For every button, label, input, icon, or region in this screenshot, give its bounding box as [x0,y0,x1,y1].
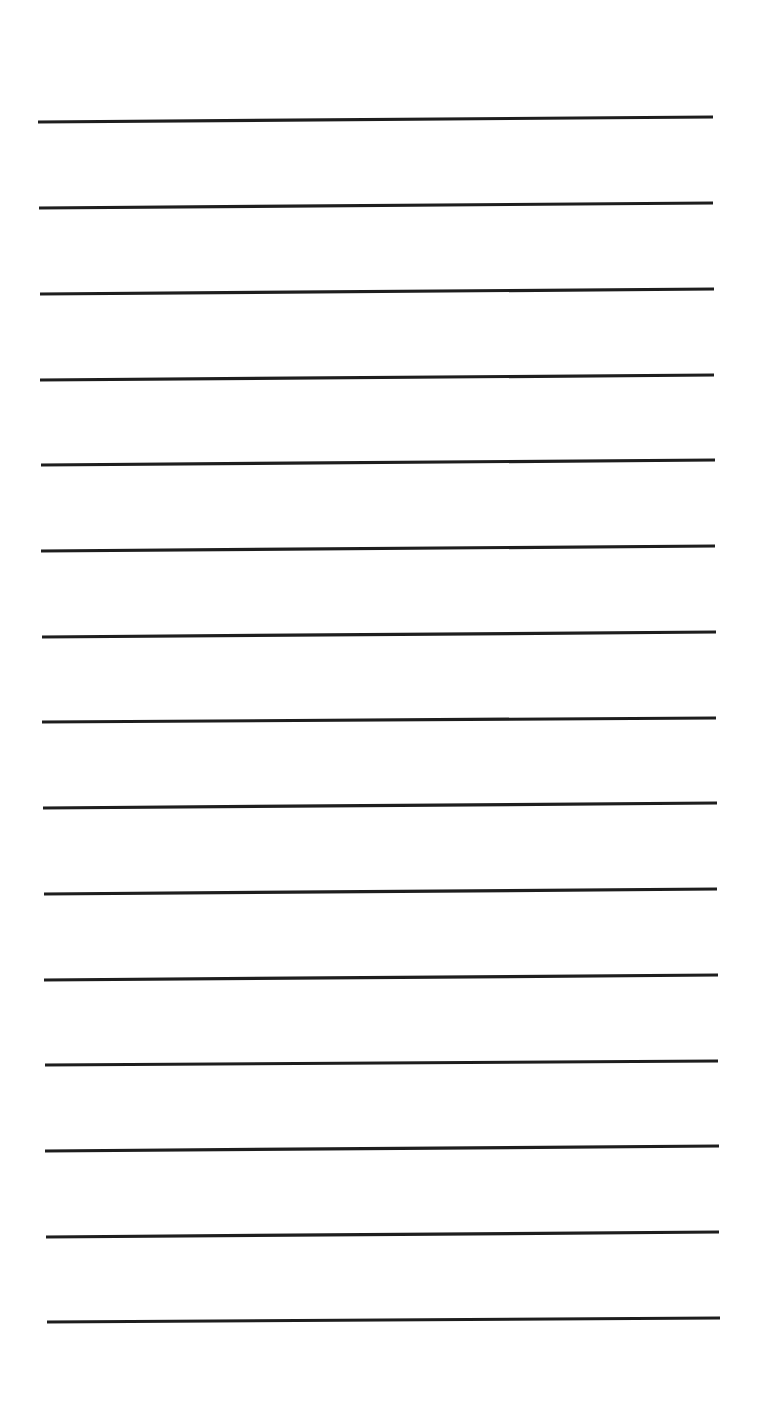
ruled-line-7 [42,632,716,637]
ruled-line-15 [47,1318,720,1322]
ruled-line-13 [45,1146,719,1151]
ruled-line-1 [38,117,713,122]
ruled-line-12 [45,1061,718,1065]
ruled-line-10 [44,889,717,894]
ruled-line-14 [46,1232,719,1237]
ruled-line-6 [41,546,715,551]
lined-paper-sheet [0,0,757,1404]
ruled-line-4 [40,375,714,380]
ruled-line-8 [42,718,716,722]
ruled-line-5 [41,460,715,465]
ruled-line-2 [39,203,713,208]
ruled-line-11 [44,975,718,980]
ruled-line-9 [43,803,717,808]
ruled-line-3 [40,289,714,294]
